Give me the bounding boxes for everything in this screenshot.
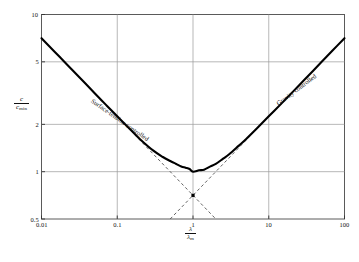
x-tick-label: 100 bbox=[340, 221, 350, 228]
figure-container: c cmin λ λm 0.010.1110100 0.512510 Surfa… bbox=[0, 0, 359, 262]
y-tick-label: 5 bbox=[36, 58, 39, 65]
x-axis-label-denominator: λm bbox=[185, 234, 196, 241]
x-axis-label: λ λm bbox=[185, 226, 196, 242]
y-tick-label: 1 bbox=[36, 168, 39, 175]
y-axis-label-denominator-subscript: min bbox=[19, 106, 27, 111]
crossing-marker bbox=[191, 194, 194, 197]
y-axis-label: c cmin bbox=[14, 96, 29, 112]
chart-canvas bbox=[0, 0, 359, 262]
x-tick-label: 10 bbox=[265, 221, 272, 228]
y-tick-label: 10 bbox=[32, 11, 39, 18]
x-tick-label: 0.1 bbox=[113, 221, 121, 228]
y-tick-label: 2 bbox=[36, 121, 39, 128]
y-tick-label: 0.5 bbox=[31, 216, 39, 223]
x-axis-label-denominator-subscript: m bbox=[190, 236, 194, 241]
x-tick-label: 1 bbox=[192, 221, 195, 228]
y-axis-label-denominator: cmin bbox=[14, 104, 29, 111]
asymptote-crossing-marker bbox=[191, 194, 194, 197]
